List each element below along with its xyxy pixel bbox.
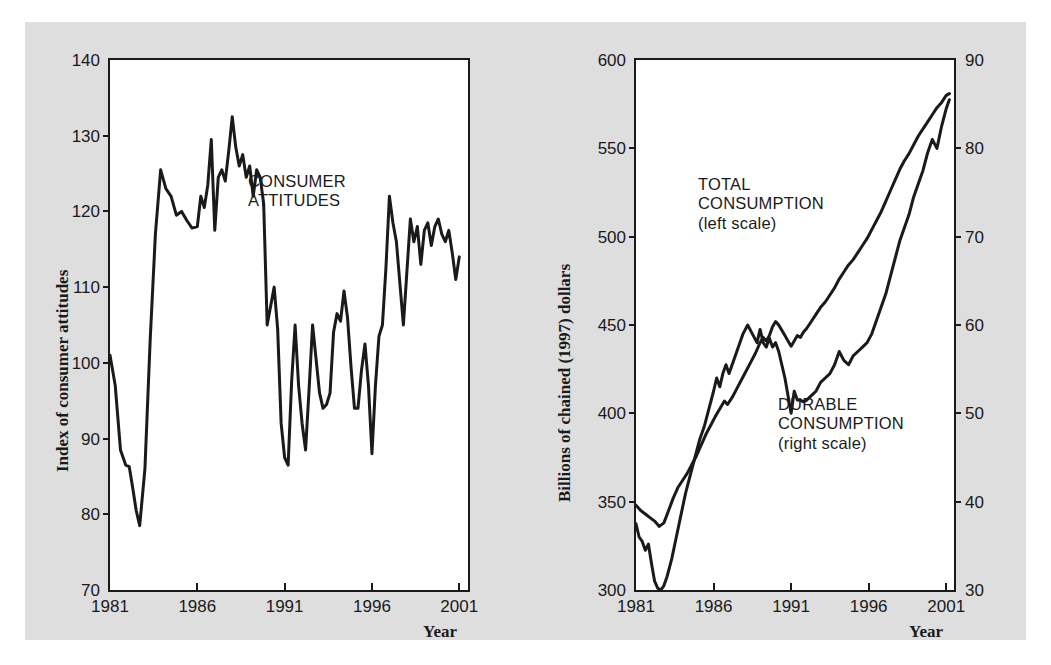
y-tick-label-right: 60 [965, 317, 984, 334]
x-tick-label: 1991 [772, 598, 810, 615]
y-tick-label-right: 50 [965, 405, 984, 422]
y-tick-label: 500 [582, 229, 626, 246]
y-tick-mark [103, 513, 110, 515]
y-tick-label: 350 [582, 494, 626, 511]
y-tick-mark [103, 286, 110, 288]
y-tick-mark [629, 324, 636, 326]
y-tick-label: 550 [582, 140, 626, 157]
annotation-consumer-attitudes: CONSUMER ATTITUDES [248, 172, 346, 211]
y-tick-label: 140 [56, 52, 100, 69]
x-tick-label: 2001 [927, 598, 965, 615]
figure-background: Index of consumer attitudes 708090100110… [25, 22, 1026, 640]
x-tick-mark [868, 583, 870, 590]
x-tick-mark [790, 583, 792, 590]
y-tick-mark [103, 362, 110, 364]
y-tick-label: 400 [582, 405, 626, 422]
x-tick-mark [371, 583, 373, 590]
x-tick-label: 1986 [178, 598, 216, 615]
x-tick-mark [713, 583, 715, 590]
y-tick-mark-right [954, 412, 961, 414]
x-tick-label: 1996 [850, 598, 888, 615]
chart-panel-consumption: Billions of chained (1997) dollars 30035… [525, 22, 1025, 640]
y-tick-mark [629, 501, 636, 503]
x-axis-title: Year [909, 622, 943, 642]
y-tick-mark-right [954, 147, 961, 149]
y-tick-label: 600 [582, 52, 626, 69]
x-axis-title: Year [423, 622, 457, 642]
x-tick-label: 1981 [617, 598, 655, 615]
y-tick-label: 120 [56, 203, 100, 220]
x-tick-mark [945, 583, 947, 590]
annotation-total-consumption: TOTAL CONSUMPTION (left scale) [698, 175, 824, 233]
y-tick-mark [629, 236, 636, 238]
y-tick-label-right: 80 [965, 140, 984, 157]
y-tick-mark-right [954, 324, 961, 326]
y-tick-mark [629, 412, 636, 414]
y-tick-mark [103, 210, 110, 212]
x-tick-mark [458, 583, 460, 590]
consumption-lines [636, 60, 954, 590]
y-tick-label: 90 [56, 431, 100, 448]
y-tick-label-right: 40 [965, 494, 984, 511]
series-line [636, 94, 949, 527]
y-tick-mark [103, 438, 110, 440]
y-tick-label: 450 [582, 317, 626, 334]
y-tick-label-right: 70 [965, 229, 984, 246]
x-tick-label: 1991 [266, 598, 304, 615]
x-tick-label: 1981 [91, 598, 129, 615]
y-tick-label: 130 [56, 128, 100, 145]
x-tick-mark [196, 583, 198, 590]
y-tick-label: 80 [56, 506, 100, 523]
consumer-attitudes-line [110, 60, 468, 590]
y-tick-label: 100 [56, 355, 100, 372]
x-tick-label: 1996 [353, 598, 391, 615]
annotation-durable-consumption: DURABLE CONSUMPTION (right scale) [778, 395, 904, 453]
y-tick-label-right: 30 [965, 582, 984, 599]
plot-area-consumer-attitudes [108, 58, 470, 592]
chart-panel-consumer-attitudes: Index of consumer attitudes 708090100110… [25, 22, 525, 640]
y-tick-mark-right [954, 236, 961, 238]
y-tick-label: 110 [56, 279, 100, 296]
plot-area-consumption [634, 58, 956, 592]
y-tick-mark [629, 147, 636, 149]
y-tick-label-right: 90 [965, 52, 984, 69]
y-axis-title: Billions of chained (1997) dollars [555, 264, 575, 502]
x-tick-mark [284, 583, 286, 590]
y-tick-mark [103, 135, 110, 137]
y-tick-mark-right [954, 501, 961, 503]
x-tick-label: 2001 [440, 598, 478, 615]
x-tick-label: 1986 [695, 598, 733, 615]
